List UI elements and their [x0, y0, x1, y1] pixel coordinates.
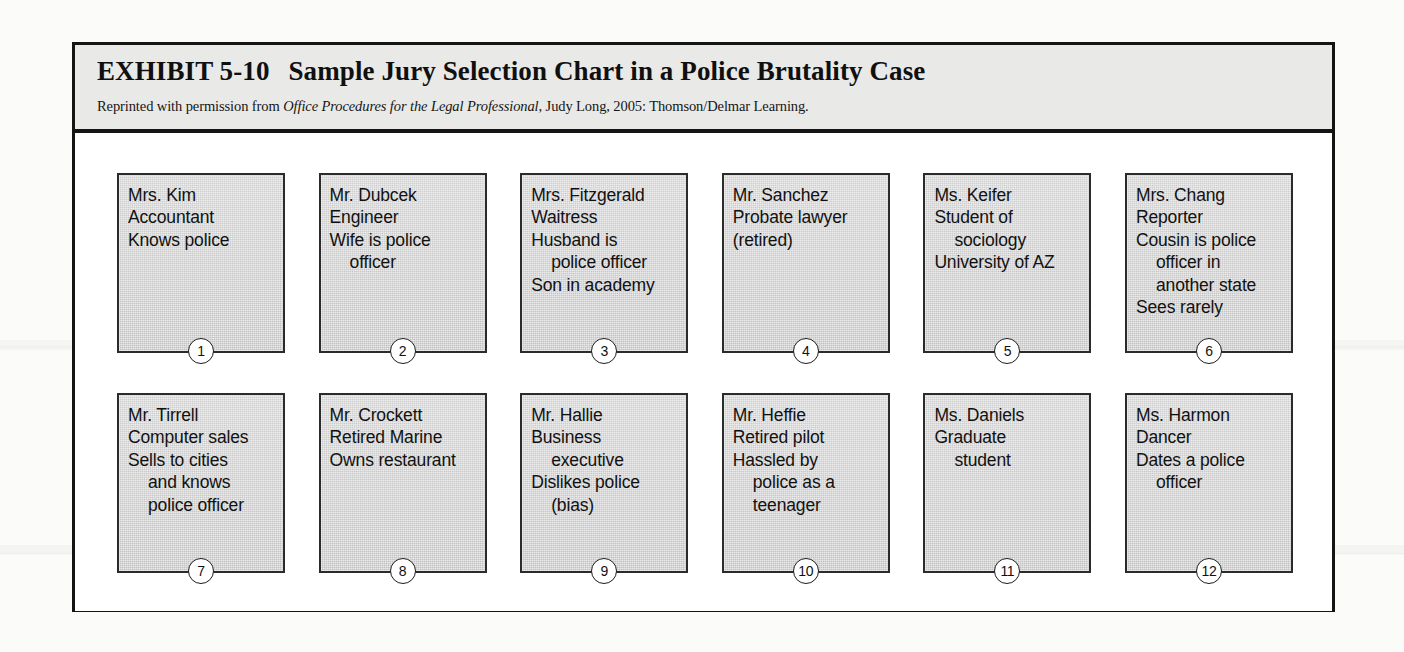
juror-detail-line: Knows police — [128, 229, 277, 251]
juror-name: Mrs. Chang — [1136, 184, 1285, 206]
juror-detail-line: Sees rarely — [1136, 296, 1285, 318]
juror-card[interactable]: Mrs. ChangReporterCousin is policeoffice… — [1125, 173, 1293, 353]
juror-detail-line: (retired) — [733, 229, 882, 251]
exhibit-title-text: Sample Jury Selection Chart in a Police … — [289, 56, 926, 86]
juror-detail-line: Retired Marine — [330, 426, 479, 448]
juror-name: Ms. Harmon — [1136, 404, 1285, 426]
juror-card[interactable]: Ms. KeiferStudent ofsociologyUniversity … — [923, 173, 1091, 353]
juror-detail-line: executive — [531, 449, 680, 471]
exhibit-frame: EXHIBIT 5-10Sample Jury Selection Chart … — [72, 42, 1335, 612]
juror-seat-number-badge: 3 — [591, 338, 617, 364]
juror-detail-line: Wife is police — [330, 229, 479, 251]
juror-name: Mrs. Kim — [128, 184, 277, 206]
juror-detail-line: Student of — [934, 206, 1083, 228]
juror-detail-line: University of AZ — [934, 251, 1083, 273]
juror-name: Mrs. Fitzgerald — [531, 184, 680, 206]
juror-card-text: Mr. CrockettRetired MarineOwns restauran… — [321, 395, 485, 471]
juror-name: Mr. Crockett — [330, 404, 479, 426]
juror-detail-line: Business — [531, 426, 680, 448]
juror-detail-line: Computer sales — [128, 426, 277, 448]
juror-card[interactable]: Mr. HallieBusinessexecutiveDislikes poli… — [520, 393, 688, 573]
juror-card[interactable]: Mr. HeffieRetired pilotHassled bypolice … — [722, 393, 890, 573]
juror-card-text: Mrs. KimAccountantKnows police — [119, 175, 283, 251]
juror-card-text: Mr. DubcekEngineerWife is policeofficer — [321, 175, 485, 274]
juror-detail-line: Husband is — [531, 229, 680, 251]
juror-seat-number-badge: 2 — [390, 338, 416, 364]
juror-card[interactable]: Mrs. FitzgeraldWaitressHusband ispolice … — [520, 173, 688, 353]
juror-card[interactable]: Mrs. KimAccountantKnows police1 — [117, 173, 285, 353]
juror-detail-line: teenager — [733, 494, 882, 516]
juror-seat-number-badge: 10 — [793, 558, 819, 584]
juror-card-text: Mr. TirrellComputer salesSells to cities… — [119, 395, 283, 516]
credit-suffix: , Judy Long, 2005: Thomson/Delmar Learni… — [539, 98, 809, 114]
juror-name: Mr. Heffie — [733, 404, 882, 426]
juror-card[interactable]: Mr. SanchezProbate lawyer(retired)4 — [722, 173, 890, 353]
juror-detail-line: Hassled by — [733, 449, 882, 471]
juror-detail-line: officer in — [1136, 251, 1285, 273]
juror-card-text: Mr. HeffieRetired pilotHassled bypolice … — [724, 395, 888, 516]
juror-detail-line: Reporter — [1136, 206, 1285, 228]
juror-seat-number-badge: 8 — [390, 558, 416, 584]
juror-seat-number-badge: 6 — [1196, 338, 1222, 364]
juror-detail-line: officer — [330, 251, 479, 273]
juror-name: Mr. Sanchez — [733, 184, 882, 206]
juror-seat-number-badge: 11 — [994, 558, 1020, 584]
juror-card[interactable]: Mr. TirrellComputer salesSells to cities… — [117, 393, 285, 573]
juror-detail-line: (bias) — [531, 494, 680, 516]
juror-card-text: Ms. DanielsGraduatestudent — [925, 395, 1089, 471]
juror-detail-line: and knows — [128, 471, 277, 493]
juror-name: Ms. Keifer — [934, 184, 1083, 206]
exhibit-body: Mrs. KimAccountantKnows police1Mr. Dubce… — [75, 133, 1332, 611]
credit-book-title: Office Procedures for the Legal Professi… — [283, 98, 538, 114]
juror-card[interactable]: Ms. HarmonDancerDates a policeofficer12 — [1125, 393, 1293, 573]
juror-seat-number-badge: 12 — [1196, 558, 1222, 584]
juror-detail-line: police as a — [733, 471, 882, 493]
juror-name: Mr. Tirrell — [128, 404, 277, 426]
juror-name: Mr. Dubcek — [330, 184, 479, 206]
juror-card-text: Mr. SanchezProbate lawyer(retired) — [724, 175, 888, 251]
juror-seat-number-badge: 9 — [591, 558, 617, 584]
juror-detail-line: Son in academy — [531, 274, 680, 296]
exhibit-header: EXHIBIT 5-10Sample Jury Selection Chart … — [75, 45, 1332, 133]
juror-card-text: Mr. HallieBusinessexecutiveDislikes poli… — [522, 395, 686, 516]
juror-detail-line: Engineer — [330, 206, 479, 228]
juror-card-text: Ms. KeiferStudent ofsociologyUniversity … — [925, 175, 1089, 274]
juror-detail-line: police officer — [128, 494, 277, 516]
juror-name: Ms. Daniels — [934, 404, 1083, 426]
juror-detail-line: Waitress — [531, 206, 680, 228]
juror-detail-line: Dislikes police — [531, 471, 680, 493]
juror-detail-line: Accountant — [128, 206, 277, 228]
juror-detail-line: police officer — [531, 251, 680, 273]
juror-detail-line: Sells to cities — [128, 449, 277, 471]
juror-card-row-1: Mrs. KimAccountantKnows police1Mr. Dubce… — [117, 173, 1293, 353]
juror-card[interactable]: Ms. DanielsGraduatestudent11 — [923, 393, 1091, 573]
juror-detail-line: sociology — [934, 229, 1083, 251]
juror-detail-line: Retired pilot — [733, 426, 882, 448]
juror-card[interactable]: Mr. CrockettRetired MarineOwns restauran… — [319, 393, 487, 573]
juror-detail-line: student — [934, 449, 1083, 471]
juror-detail-line: Dancer — [1136, 426, 1285, 448]
juror-card-text: Mrs. ChangReporterCousin is policeoffice… — [1127, 175, 1291, 318]
juror-detail-line: Owns restaurant — [330, 449, 479, 471]
exhibit-credit: Reprinted with permission from Office Pr… — [97, 98, 1312, 115]
juror-seat-number-badge: 1 — [188, 338, 214, 364]
juror-card[interactable]: Mr. DubcekEngineerWife is policeofficer2 — [319, 173, 487, 353]
juror-card-text: Mrs. FitzgeraldWaitressHusband ispolice … — [522, 175, 686, 296]
juror-detail-line: another state — [1136, 274, 1285, 296]
juror-card-text: Ms. HarmonDancerDates a policeofficer — [1127, 395, 1291, 494]
juror-detail-line: Dates a police — [1136, 449, 1285, 471]
juror-detail-line: officer — [1136, 471, 1285, 493]
juror-seat-number-badge: 7 — [188, 558, 214, 584]
juror-detail-line: Cousin is police — [1136, 229, 1285, 251]
juror-detail-line: Graduate — [934, 426, 1083, 448]
juror-card-row-2: Mr. TirrellComputer salesSells to cities… — [117, 393, 1293, 573]
juror-seat-number-badge: 5 — [994, 338, 1020, 364]
exhibit-title: EXHIBIT 5-10Sample Jury Selection Chart … — [97, 56, 1312, 87]
credit-prefix: Reprinted with permission from — [97, 98, 283, 114]
juror-name: Mr. Hallie — [531, 404, 680, 426]
juror-detail-line: Probate lawyer — [733, 206, 882, 228]
exhibit-number: EXHIBIT 5-10 — [97, 56, 270, 86]
juror-seat-number-badge: 4 — [793, 338, 819, 364]
